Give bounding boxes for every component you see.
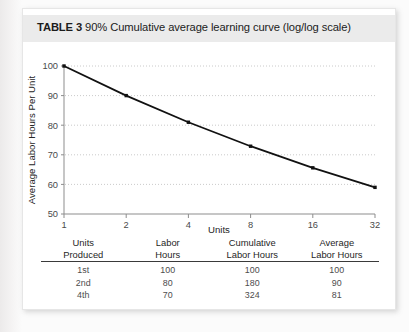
header-line-2: Produced [41,249,126,261]
y-tick-label: 60 [48,180,58,190]
y-axis-title: Average Labor Hours Per Unit [26,75,37,204]
cell-labor-hours: 100 [126,262,211,277]
cell-cumulative-labor-hours: 180 [210,276,295,288]
y-tick-label: 70 [48,150,58,160]
learning-curve-data-table: Units Produced Labor Hours Cumulative La… [41,237,379,301]
data-point-marker [62,64,65,67]
header-line-2: Labor Hours [210,249,295,261]
cell-units-produced: 4th [41,289,126,301]
header-line-1: Units [41,237,126,249]
y-tick-label: 50 [48,209,58,219]
data-point-marker [373,186,376,189]
learning-curve-markers [62,64,376,189]
header-line-1: Average [295,237,380,249]
learning-curve-chart: 5060708090100 12481632 Average Labor Hou… [23,42,397,234]
data-point-marker [249,145,252,148]
table-body: 1st 100 100 100 2nd 80 180 90 4th 70 [41,262,379,302]
data-point-marker [125,94,128,97]
x-tick-label: 8 [248,220,253,230]
cell-average-labor-hours: 100 [295,262,380,277]
data-point-marker [187,121,190,124]
data-table-container: Units Produced Labor Hours Cumulative La… [41,237,379,301]
x-axis-title: Units [208,224,230,234]
chart-gridlines [61,66,375,214]
header-line-2: Labor Hours [295,249,380,261]
y-tick-label: 100 [42,61,58,71]
cell-labor-hours: 80 [126,276,211,288]
x-tick-label: 1 [61,220,66,230]
table-caption: 90% Cumulative average learning curve (l… [85,21,351,33]
cell-average-labor-hours: 81 [295,289,380,301]
data-point-marker [311,166,314,169]
x-tick-label: 2 [124,220,129,230]
cell-units-produced: 1st [41,262,126,277]
header-line-1: Cumulative [210,237,295,249]
table-head: Units Produced Labor Hours Cumulative La… [41,237,379,262]
table-header-row: Units Produced Labor Hours Cumulative La… [41,237,379,262]
column-header-units-produced: Units Produced [41,237,126,262]
header-line-1: Labor [126,237,211,249]
cell-cumulative-labor-hours: 100 [210,262,295,277]
learning-curve-line [64,66,375,187]
column-header-labor-hours: Labor Hours [126,237,211,262]
x-tick-label: 16 [308,220,318,230]
cell-average-labor-hours: 90 [295,276,380,288]
column-header-average-labor-hours: Average Labor Hours [295,237,380,262]
x-tick-label: 4 [186,220,191,230]
y-tick-label: 80 [48,121,58,131]
y-axis-tick-labels: 5060708090100 [42,61,58,219]
x-axis-ticks [64,214,375,218]
table-row: 2nd 80 180 90 [41,276,379,288]
y-tick-label: 90 [48,91,58,101]
x-tick-label: 32 [370,220,380,230]
figure-card: TABLE 3 90% Cumulative average learning … [22,8,396,310]
page-background: TABLE 3 90% Cumulative average learning … [0,0,409,332]
table-row: 1st 100 100 100 [41,262,379,277]
cell-labor-hours: 70 [126,289,211,301]
column-header-cumulative-labor-hours: Cumulative Labor Hours [210,237,295,262]
figure-title: TABLE 3 90% Cumulative average learning … [37,21,351,33]
table-number-label: TABLE 3 [37,21,82,33]
chart-svg: 5060708090100 12481632 Average Labor Hou… [23,42,397,234]
cell-units-produced: 2nd [41,276,126,288]
header-line-2: Hours [126,249,211,261]
cell-cumulative-labor-hours: 324 [210,289,295,301]
table-row: 4th 70 324 81 [41,289,379,301]
